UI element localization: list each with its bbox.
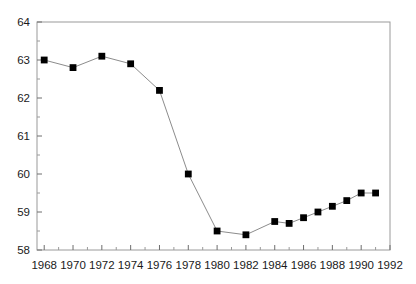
x-tick-label: 1968 — [31, 259, 57, 271]
data-point-marker — [185, 171, 192, 178]
series-line-0 — [44, 56, 375, 235]
data-point-marker — [343, 197, 350, 204]
x-tick-label: 1982 — [233, 259, 259, 271]
data-point-marker — [372, 190, 379, 197]
x-tick-label: 1986 — [291, 259, 317, 271]
data-point-marker — [300, 214, 307, 221]
x-tick-label: 1976 — [147, 259, 173, 271]
x-tick-label: 1970 — [60, 259, 86, 271]
y-tick-label: 64 — [17, 16, 30, 28]
data-point-marker — [286, 220, 293, 227]
data-point-marker — [156, 87, 163, 94]
y-tick-label: 60 — [17, 168, 30, 180]
x-tick-label: 1990 — [348, 259, 374, 271]
data-point-marker — [315, 209, 322, 216]
line-chart: 5859606162636419681970197219741976197819… — [0, 0, 416, 284]
x-tick-label: 1974 — [118, 259, 144, 271]
plot-frame — [37, 22, 390, 250]
data-point-marker — [98, 53, 105, 60]
x-tick-label: 1984 — [262, 259, 288, 271]
data-point-marker — [243, 231, 250, 238]
x-tick-label: 1988 — [320, 259, 346, 271]
data-point-marker — [329, 203, 336, 210]
x-tick-label: 1992 — [377, 259, 403, 271]
y-tick-label: 59 — [17, 206, 30, 218]
data-point-marker — [271, 218, 278, 225]
x-tick-label: 1972 — [89, 259, 115, 271]
data-point-marker — [358, 190, 365, 197]
chart-canvas: 5859606162636419681970197219741976197819… — [0, 0, 416, 284]
y-tick-label: 58 — [17, 244, 30, 256]
data-point-marker — [70, 64, 77, 71]
data-point-marker — [127, 60, 134, 67]
x-tick-label: 1978 — [175, 259, 201, 271]
x-tick-label: 1980 — [204, 259, 230, 271]
y-tick-label: 63 — [17, 54, 30, 66]
y-tick-label: 62 — [17, 92, 30, 104]
y-tick-label: 61 — [17, 130, 30, 142]
data-point-marker — [41, 57, 48, 64]
data-point-marker — [214, 228, 221, 235]
